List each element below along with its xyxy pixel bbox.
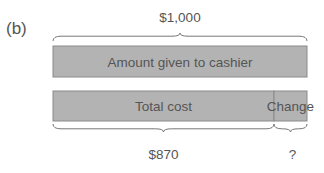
change-segment-label: Change xyxy=(267,99,314,114)
change-brace xyxy=(274,124,307,132)
change-value-label: ? xyxy=(289,147,297,162)
panel-label: (b) xyxy=(6,19,27,38)
amount-given-label: Amount given to cashier xyxy=(108,55,253,70)
top-brace xyxy=(53,33,307,41)
tape-diagram: (b) $1,000 Amount given to cashier Total… xyxy=(0,0,324,173)
total-amount-label: $1,000 xyxy=(159,10,200,25)
total-cost-value-label: $870 xyxy=(148,147,178,162)
total-cost-brace xyxy=(53,124,274,132)
total-cost-segment-label: Total cost xyxy=(135,99,192,114)
